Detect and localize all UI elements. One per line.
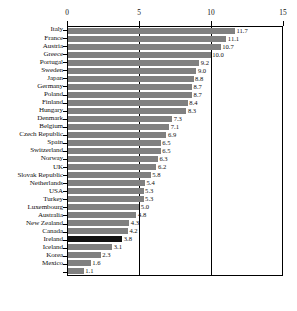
bar bbox=[68, 156, 158, 162]
bar bbox=[68, 92, 192, 98]
bar-value-label: 3.1 bbox=[114, 244, 122, 251]
bar bbox=[68, 268, 84, 274]
bar-value-label: 5.3 bbox=[145, 196, 153, 203]
bar-value-label: 5.8 bbox=[152, 172, 160, 179]
bar bbox=[68, 60, 199, 66]
category-label: France bbox=[0, 34, 66, 42]
bar-value-label: 6.2 bbox=[158, 164, 166, 171]
bar-row: 7.1 bbox=[68, 123, 282, 131]
category-label: Norway bbox=[0, 155, 66, 163]
category-label: Austria bbox=[0, 42, 66, 50]
bar bbox=[68, 84, 192, 90]
bar-row: 3.1 bbox=[68, 243, 282, 251]
bar-row: 8.8 bbox=[68, 75, 282, 83]
bar bbox=[68, 148, 161, 154]
bar bbox=[68, 204, 139, 210]
bar-chart: 051015 ItalyFranceAustriaGreecePortugalS… bbox=[0, 0, 297, 311]
category-label bbox=[0, 268, 66, 276]
bar bbox=[68, 212, 136, 218]
bar bbox=[68, 244, 112, 250]
bar bbox=[68, 164, 156, 170]
bar-row: 6.3 bbox=[68, 155, 282, 163]
bar-value-label: 7.1 bbox=[171, 124, 179, 131]
bar-row: 6.9 bbox=[68, 131, 282, 139]
bar-row: 8.3 bbox=[68, 107, 282, 115]
bar bbox=[68, 140, 161, 146]
bar-row: 1.6 bbox=[68, 259, 282, 267]
bar bbox=[68, 100, 188, 106]
bar-value-label: 4.3 bbox=[131, 220, 139, 227]
bar-row: 2.3 bbox=[68, 251, 282, 259]
bar-value-label: 7.3 bbox=[174, 116, 182, 123]
bar-row: 6.5 bbox=[68, 139, 282, 147]
category-label: Slovak Republic bbox=[0, 171, 66, 179]
bar-row: 1.1 bbox=[68, 267, 282, 275]
bar bbox=[68, 188, 144, 194]
bar-row: 5.3 bbox=[68, 187, 282, 195]
bar bbox=[68, 68, 196, 74]
bar-value-label: 5.4 bbox=[147, 180, 155, 187]
bar-value-label: 1.1 bbox=[85, 268, 93, 275]
bar-rows: 11.711.110.710.09.29.08.88.78.78.48.37.3… bbox=[68, 27, 282, 275]
bar-row: 4.8 bbox=[68, 211, 282, 219]
bar-row: 5.8 bbox=[68, 171, 282, 179]
bar bbox=[68, 132, 166, 138]
category-label: Italy bbox=[0, 26, 66, 34]
bar-row: 8.7 bbox=[68, 91, 282, 99]
bar bbox=[68, 36, 226, 42]
bar-row: 5.4 bbox=[68, 179, 282, 187]
bar-value-label: 6.5 bbox=[162, 140, 170, 147]
bar-value-label: 8.4 bbox=[189, 100, 197, 107]
bar-value-label: 10.7 bbox=[222, 44, 234, 51]
bar-row: 6.5 bbox=[68, 147, 282, 155]
category-label: UK bbox=[0, 163, 66, 171]
bar bbox=[68, 124, 169, 130]
category-label-column: ItalyFranceAustriaGreecePortugalSwedenJa… bbox=[0, 26, 66, 276]
bar-row: 11.1 bbox=[68, 35, 282, 43]
bar-value-label: 1.6 bbox=[92, 260, 100, 267]
bar-value-label: 8.8 bbox=[195, 76, 203, 83]
bar-value-label: 3.8 bbox=[124, 236, 132, 243]
bar-value-label: 11.7 bbox=[236, 28, 247, 35]
bar bbox=[68, 52, 211, 58]
bar bbox=[68, 28, 235, 34]
bar-row: 7.3 bbox=[68, 115, 282, 123]
x-axis-tick bbox=[283, 21, 284, 26]
bar bbox=[68, 220, 129, 226]
x-axis-tick-label: 0 bbox=[65, 9, 69, 16]
bar-row: 5.3 bbox=[68, 195, 282, 203]
bar-value-label: 9.2 bbox=[201, 60, 209, 67]
bar-value-label: 8.7 bbox=[194, 84, 202, 91]
bar bbox=[68, 252, 101, 258]
bar-row: 8.4 bbox=[68, 99, 282, 107]
bar-value-label: 10.0 bbox=[212, 52, 224, 59]
bar-value-label: 4.2 bbox=[129, 228, 137, 235]
bar-value-label: 9.0 bbox=[198, 68, 206, 75]
bar-value-label: 4.8 bbox=[138, 212, 146, 219]
bar-value-label: 8.7 bbox=[194, 92, 202, 99]
bar-value-label: 2.3 bbox=[102, 252, 110, 259]
bar-value-label: 11.1 bbox=[228, 36, 239, 43]
bar-row: 9.0 bbox=[68, 67, 282, 75]
bar bbox=[68, 180, 145, 186]
x-axis-tick-label: 15 bbox=[279, 9, 286, 16]
bar bbox=[68, 196, 144, 202]
plot-area: 11.711.110.710.09.29.08.88.78.78.48.37.3… bbox=[67, 26, 283, 276]
x-axis-tick-label: 10 bbox=[207, 9, 214, 16]
bar-value-label: 6.9 bbox=[168, 132, 176, 139]
bar bbox=[68, 228, 128, 234]
bar-row: 5.0 bbox=[68, 203, 282, 211]
bar-row: 4.3 bbox=[68, 219, 282, 227]
bar bbox=[68, 172, 151, 178]
category-label: Mexico bbox=[0, 260, 66, 268]
bar-value-label: 5.0 bbox=[141, 204, 149, 211]
bar-value-label: 6.5 bbox=[162, 148, 170, 155]
bar-row: 10.7 bbox=[68, 43, 282, 51]
bar-row: 11.7 bbox=[68, 27, 282, 35]
bar-value-label: 5.3 bbox=[145, 188, 153, 195]
bar-row: 10.0 bbox=[68, 51, 282, 59]
bar-row: 3.8 bbox=[68, 235, 282, 243]
bar-row: 6.2 bbox=[68, 163, 282, 171]
bar bbox=[68, 108, 186, 114]
bar bbox=[68, 76, 194, 82]
